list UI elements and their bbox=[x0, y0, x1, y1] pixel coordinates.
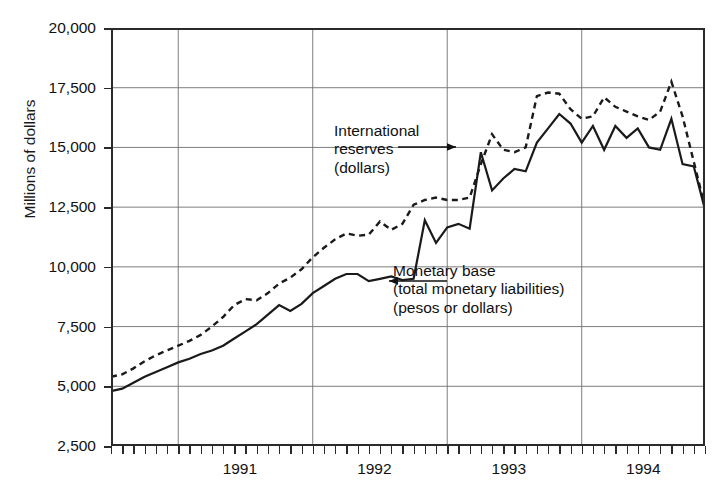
x-axis-tickmark bbox=[414, 446, 415, 454]
x-axis-tickmark bbox=[290, 446, 291, 454]
x-axis-tickmark bbox=[425, 446, 426, 454]
x-axis-tickmark bbox=[503, 446, 504, 454]
x-axis-tickmark bbox=[189, 446, 190, 454]
x-axis-tickmark bbox=[111, 446, 112, 454]
y-axis-tick-label: 20,000 bbox=[22, 20, 96, 36]
plot-area bbox=[111, 28, 705, 446]
x-axis-tickmark bbox=[470, 446, 471, 454]
x-axis-tickmark bbox=[683, 446, 684, 454]
x-axis-tickmark bbox=[514, 446, 515, 454]
x-axis-tickmark bbox=[234, 446, 235, 454]
annotation-international-reserves: International reserves (dollars) bbox=[334, 122, 419, 177]
y-axis-tick-labels: 2,5005,0007,50010,00012,50015,00017,5002… bbox=[22, 0, 96, 492]
y-axis-tick-label: 12,500 bbox=[22, 199, 96, 215]
x-axis-tickmark bbox=[559, 446, 560, 454]
x-axis-tickmark bbox=[604, 446, 605, 454]
annotation-reserves-line1: International bbox=[334, 122, 419, 140]
x-axis-tickmark bbox=[335, 446, 336, 454]
annotation-monetary-base: Monetary base (total monetary liabilitie… bbox=[393, 262, 564, 317]
annotation-base-line1: Monetary base bbox=[393, 262, 564, 280]
y-axis-tick-label: 7,500 bbox=[22, 319, 96, 335]
x-axis-tickmark bbox=[526, 446, 527, 454]
x-axis-tickmark bbox=[133, 446, 134, 454]
x-axis-tickmark bbox=[705, 446, 706, 454]
y-axis-tick-label: 2,500 bbox=[22, 438, 96, 454]
x-axis-tick-label: 1994 bbox=[608, 460, 678, 478]
x-axis-tickmark bbox=[548, 446, 549, 454]
x-axis-tickmark bbox=[145, 446, 146, 454]
x-axis-tickmark bbox=[346, 446, 347, 454]
x-axis-tickmark bbox=[638, 446, 639, 454]
x-axis-tickmark bbox=[660, 446, 661, 454]
x-axis-tickmark bbox=[324, 446, 325, 454]
plot-frame bbox=[111, 28, 705, 446]
x-axis-tickmark bbox=[268, 446, 269, 454]
x-axis-tickmark bbox=[458, 446, 459, 454]
y-axis-tick-label: 17,500 bbox=[22, 80, 96, 96]
x-axis-tickmark bbox=[694, 446, 695, 454]
y-axis-tickmark bbox=[104, 207, 111, 209]
x-axis-tickmark bbox=[358, 446, 359, 454]
x-axis-tickmark bbox=[436, 446, 437, 454]
x-axis-tickmark bbox=[391, 446, 392, 454]
x-axis-tickmark bbox=[257, 446, 258, 454]
x-axis-tickmark bbox=[615, 446, 616, 454]
x-axis-tickmark bbox=[223, 446, 224, 454]
x-axis-tickmark bbox=[481, 446, 482, 454]
y-axis-tickmark bbox=[104, 147, 111, 149]
x-axis-tickmark bbox=[447, 446, 448, 454]
x-axis-tickmark bbox=[402, 446, 403, 454]
x-axis-tickmark bbox=[245, 446, 246, 454]
x-axis-tickmark bbox=[313, 446, 314, 454]
annotation-base-line3: (pesos or dollars) bbox=[393, 299, 564, 317]
x-axis-tick-label: 1992 bbox=[339, 460, 409, 478]
y-axis-tickmark bbox=[104, 386, 111, 388]
annotation-reserves-line2: reserves bbox=[334, 140, 419, 158]
x-axis-tick-label: 1991 bbox=[205, 460, 275, 478]
x-axis-tickmark bbox=[279, 446, 280, 454]
chart-figure: Millions of dollars 2,5005,0007,50010,00… bbox=[0, 0, 724, 492]
y-axis-tick-label: 5,000 bbox=[22, 378, 96, 394]
x-axis-tick-label: 1993 bbox=[474, 460, 544, 478]
x-axis-tickmark bbox=[122, 446, 123, 454]
x-axis-tickmark bbox=[593, 446, 594, 454]
y-axis-tickmark bbox=[104, 28, 111, 30]
y-axis-tickmark bbox=[104, 327, 111, 329]
y-axis-tickmark bbox=[104, 446, 111, 448]
x-axis-tickmark bbox=[649, 446, 650, 454]
y-axis-tick-label: 10,000 bbox=[22, 259, 96, 275]
x-axis-tickmark bbox=[302, 446, 303, 454]
x-axis-tickmark bbox=[201, 446, 202, 454]
y-axis-tickmark bbox=[104, 88, 111, 90]
x-axis-tickmark bbox=[369, 446, 370, 454]
x-axis-tickmark bbox=[537, 446, 538, 454]
x-axis-tickmark bbox=[671, 446, 672, 454]
x-axis-tickmark bbox=[167, 446, 168, 454]
x-axis-tickmark bbox=[380, 446, 381, 454]
annotation-base-line2: (total monetary liabilities) bbox=[393, 280, 564, 298]
x-axis-tickmark bbox=[627, 446, 628, 454]
x-axis-tickmark bbox=[156, 446, 157, 454]
x-axis-tickmark bbox=[492, 446, 493, 454]
y-axis-tick-label: 15,000 bbox=[22, 139, 96, 155]
y-axis-tickmark bbox=[104, 267, 111, 269]
x-axis-tickmark bbox=[178, 446, 179, 454]
x-axis-tickmark bbox=[571, 446, 572, 454]
x-axis-tickmark bbox=[212, 446, 213, 454]
x-axis-tickmark bbox=[582, 446, 583, 454]
annotation-reserves-line3: (dollars) bbox=[334, 159, 419, 177]
